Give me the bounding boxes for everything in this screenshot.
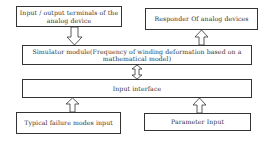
arrow-io-to-simulator [67,27,82,45]
responder-box: Responder Of analog devices [145,8,258,30]
parameter-input-label: Parameter Input [171,118,224,126]
responder-label: Responder Of analog devices [154,15,248,23]
arrow-parameter-to-interface [193,98,206,113]
failure-modes-box: Typical failure modes input [16,112,121,134]
double-arrow-simulator-interface [132,65,142,79]
failure-modes-label: Typical failure modes input [24,119,113,127]
input-interface-label: Input interface [113,85,162,93]
io-terminals-box: Input / output terminals of the analog d… [16,6,122,27]
simulator-label: Simulator module(Frequency of winding de… [25,48,249,63]
arrow-failure-to-interface [66,98,79,112]
input-interface-box: Input interface [22,79,252,98]
parameter-input-box: Parameter Input [144,113,251,131]
arrow-simulator-to-responder [195,30,208,45]
io-terminals-label: Input / output terminals of the analog d… [19,9,119,24]
simulator-box: Simulator module(Frequency of winding de… [22,45,252,65]
